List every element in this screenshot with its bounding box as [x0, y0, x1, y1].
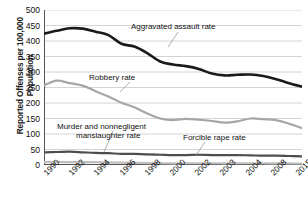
crime-rate-line-chart: Reported Offenses per 100,000 Population… [0, 0, 308, 200]
y-tick-350: 350 [14, 53, 40, 62]
y-tick-0: 0 [14, 161, 40, 170]
murder-label-line1: Murder and nonnegligent [57, 122, 146, 131]
annotation-leader-0 [168, 32, 178, 47]
y-tick-250: 250 [14, 84, 40, 93]
y-tick-50: 50 [14, 146, 40, 155]
series-line-forcible-rape-rate [44, 152, 302, 157]
y-tick-450: 450 [14, 22, 40, 31]
y-tick-150: 150 [14, 115, 40, 124]
plot-svg [44, 10, 302, 165]
y-tick-400: 400 [14, 37, 40, 46]
forcible-rape-label: Forcible rape rate [183, 133, 246, 142]
y-axis-tick-labels: 500450400350300250200150100500 [14, 0, 40, 200]
series-line-aggravated-assault-rate [44, 28, 302, 86]
annotation-leader-1 [120, 82, 130, 92]
plot-area [44, 10, 302, 165]
murder-label-line2: manslaughter rate [76, 131, 140, 140]
x-axis-tick-labels: 1990199219941996199820002002200320042008… [44, 166, 308, 200]
annotation-leader-3 [196, 142, 205, 155]
y-tick-500: 500 [14, 6, 40, 15]
aggravated-assault-label: Aggravated assault rate [131, 22, 216, 31]
y-tick-100: 100 [14, 130, 40, 139]
y-tick-200: 200 [14, 99, 40, 108]
y-tick-300: 300 [14, 68, 40, 77]
robbery-label: Robbery rate [89, 73, 135, 82]
